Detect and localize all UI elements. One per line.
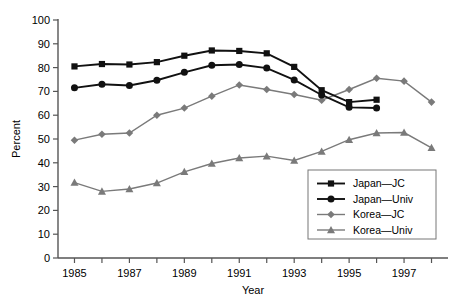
data-point	[291, 76, 298, 83]
data-point	[235, 81, 243, 89]
x-tick-label: 1987	[117, 267, 141, 279]
data-point	[71, 63, 77, 69]
data-point	[181, 104, 189, 112]
data-point	[346, 104, 353, 111]
data-point	[318, 147, 326, 154]
chart-container: 0102030405060708090100198519871989199119…	[0, 0, 460, 308]
data-point	[98, 81, 105, 88]
y-tick-label: 70	[38, 85, 50, 97]
data-point	[263, 65, 270, 72]
data-point	[291, 64, 297, 70]
data-point	[71, 136, 79, 144]
data-point	[153, 77, 160, 84]
data-point	[126, 82, 133, 89]
data-point	[181, 53, 187, 59]
data-point	[318, 91, 325, 98]
data-point	[126, 129, 134, 137]
y-tick-label: 40	[38, 157, 50, 169]
data-point	[98, 130, 106, 138]
data-point	[290, 91, 298, 99]
data-point	[181, 69, 188, 76]
data-point	[373, 105, 380, 112]
y-tick-label: 30	[38, 181, 50, 193]
data-point	[373, 97, 379, 103]
data-point	[153, 111, 161, 119]
data-point	[208, 92, 216, 100]
y-tick-label: 60	[38, 109, 50, 121]
series-line-1	[74, 65, 376, 109]
y-tick-label: 10	[38, 228, 50, 240]
legend-label-1: Japan—Univ	[353, 193, 414, 205]
data-point	[99, 61, 105, 67]
data-point	[236, 61, 243, 68]
legend-marker-0	[328, 180, 334, 186]
data-point	[264, 50, 270, 56]
y-tick-label: 80	[38, 62, 50, 74]
data-point	[373, 75, 381, 83]
x-tick-label: 1989	[172, 267, 196, 279]
y-tick-label: 20	[38, 204, 50, 216]
legend-marker-1	[328, 196, 335, 203]
series-line-0	[74, 50, 376, 102]
x-tick-label: 1993	[282, 267, 306, 279]
data-point	[428, 144, 436, 151]
y-tick-label: 90	[38, 38, 50, 50]
y-tick-label: 100	[32, 14, 50, 26]
legend-label-0: Japan—JC	[353, 177, 405, 189]
x-tick-label: 1997	[392, 267, 416, 279]
data-point	[345, 86, 353, 94]
data-point	[263, 86, 271, 94]
data-point	[208, 62, 215, 69]
y-tick-label: 0	[44, 252, 50, 264]
legend-label-3: Korea—Univ	[353, 224, 413, 236]
data-point	[126, 61, 132, 67]
x-tick-label: 1995	[337, 267, 361, 279]
x-axis-title: Year	[242, 284, 265, 296]
data-point	[209, 47, 215, 53]
y-axis-title: Percent	[10, 120, 22, 158]
data-point	[153, 179, 161, 186]
line-chart: 0102030405060708090100198519871989199119…	[0, 0, 460, 308]
legend-label-2: Korea—JC	[353, 208, 405, 220]
y-tick-label: 50	[38, 133, 50, 145]
x-tick-label: 1985	[62, 267, 86, 279]
data-point	[70, 179, 78, 186]
data-point	[71, 84, 78, 91]
x-tick-label: 1991	[227, 267, 251, 279]
data-point	[236, 48, 242, 54]
data-point	[154, 59, 160, 65]
